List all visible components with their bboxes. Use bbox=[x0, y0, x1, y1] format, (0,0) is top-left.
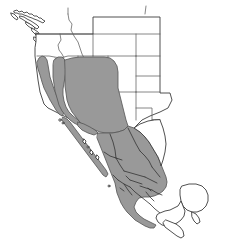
chiapas-guatemala-landmass bbox=[163, 220, 184, 238]
pacific-islet-icon bbox=[62, 122, 64, 124]
dakota-border-spur bbox=[145, 6, 146, 14]
map-canvas bbox=[0, 0, 229, 242]
channel-island-icon bbox=[59, 119, 61, 121]
distribution-range-map bbox=[0, 0, 229, 242]
belize-coast-landmass bbox=[192, 212, 200, 224]
revillagigedo-islet-icon bbox=[108, 185, 110, 187]
gulf-islet-icon bbox=[87, 146, 89, 148]
haida-gwaii-icon bbox=[11, 13, 18, 20]
oaxaca-chiapas-border bbox=[150, 204, 160, 213]
